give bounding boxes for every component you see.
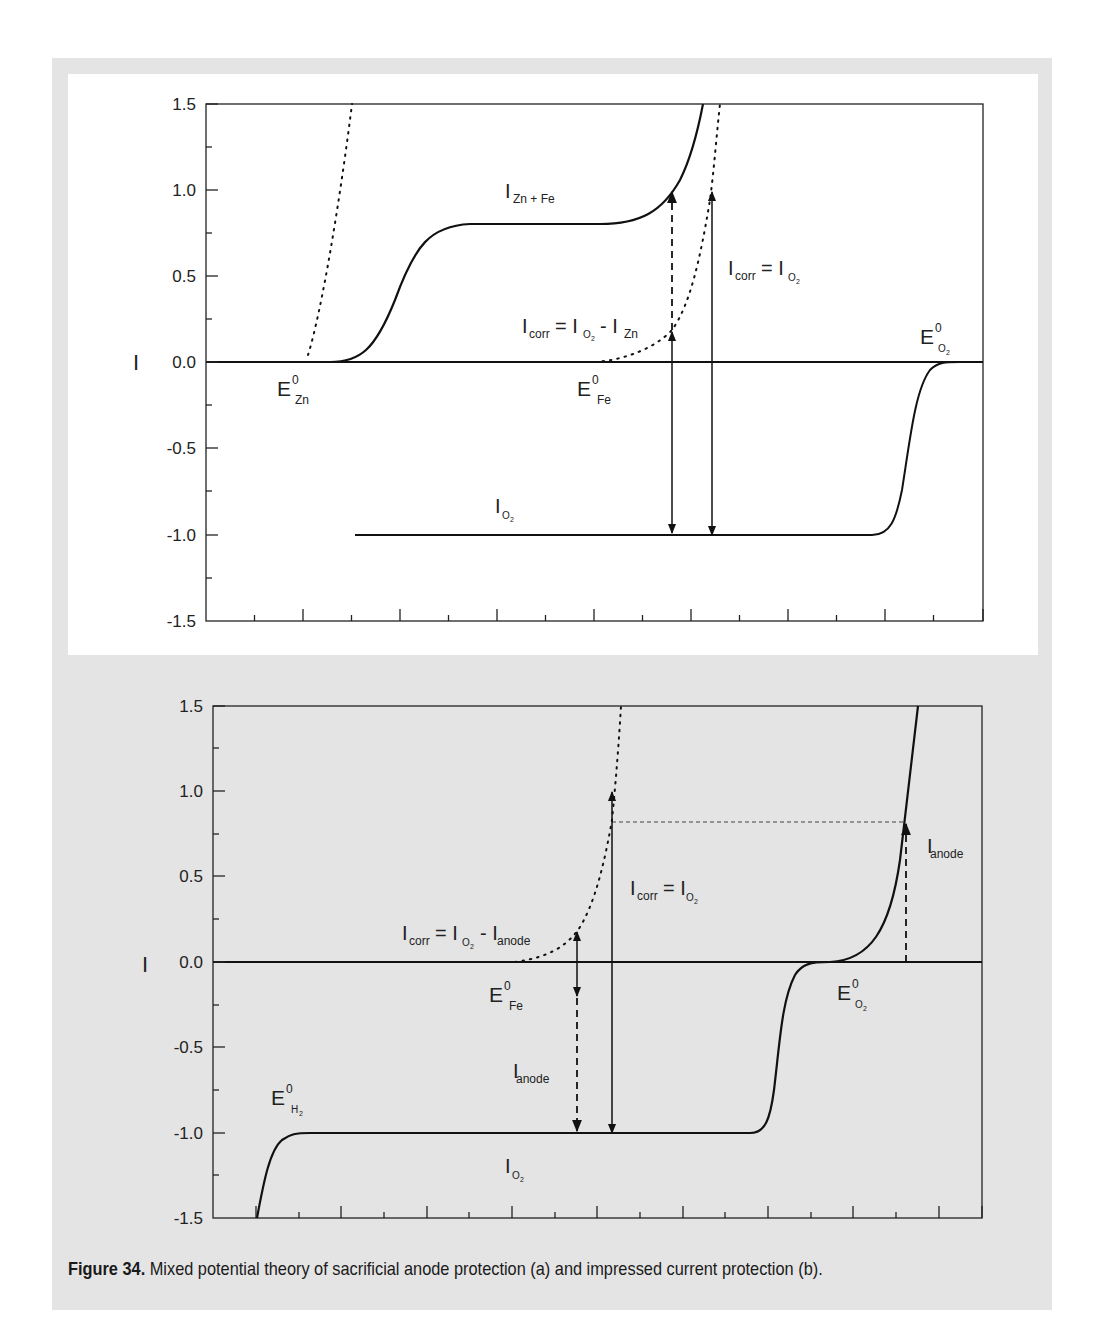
svg-text:corr: corr [637, 889, 658, 903]
svg-text:2: 2 [299, 1110, 303, 1117]
label-ianode-right: I anode [927, 835, 964, 861]
svg-text:= I: = I [555, 315, 578, 337]
label-icorr-o2: I corr = I O 2 [630, 877, 698, 905]
label-e0-fe: E 0 Fe [577, 373, 611, 407]
x-ticks [256, 1206, 982, 1218]
svg-text:H: H [291, 1104, 298, 1115]
label-icorr-o2-minus-anode: I corr = I O 2 - I anode [402, 922, 531, 950]
svg-text:E: E [277, 377, 291, 400]
svg-text:E: E [489, 983, 503, 1006]
svg-text:0: 0 [504, 979, 511, 993]
ytick-1.0: 1.0 [172, 181, 196, 200]
label-icorr-o2: I corr = I O 2 [728, 257, 800, 285]
svg-text:- I: - I [600, 315, 618, 337]
ytick-0.0: 0.0 [179, 953, 203, 972]
chart-b: 1.5 1.0 0.5 0.0 -0.5 -1.0 -1.5 I I corr … [142, 697, 982, 1228]
svg-text:corr: corr [409, 934, 430, 948]
svg-text:2: 2 [591, 335, 595, 342]
svg-text:O: O [855, 999, 863, 1010]
label-e0-o2: E 0 O 2 [837, 977, 867, 1012]
ytick-0.0: 0.0 [172, 353, 196, 372]
svg-text:2: 2 [946, 349, 950, 356]
label-e0-h2: E 0 H 2 [271, 1082, 303, 1117]
svg-text:- I: - I [480, 922, 498, 944]
svg-text:O: O [938, 343, 946, 354]
figure-svg: 1.5 1.0 0.5 0.0 -0.5 -1.0 -1.5 I I Zn + … [0, 0, 1098, 1323]
svg-text:anode: anode [497, 934, 531, 948]
svg-text:O: O [462, 937, 470, 948]
y-tick-labels: 1.5 1.0 0.5 0.0 -0.5 -1.0 -1.5 [167, 95, 196, 631]
svg-text:corr: corr [529, 327, 550, 341]
svg-text:I: I [728, 257, 734, 279]
label-icorr-o2-minus-zn: I corr = I O 2 - I Zn [522, 315, 638, 342]
ytick-0.5: 0.5 [172, 267, 196, 286]
y-ticks [206, 104, 218, 578]
ytick-neg1.5: -1.5 [174, 1209, 203, 1228]
svg-text:E: E [271, 1086, 285, 1109]
ytick-neg1.5: -1.5 [167, 612, 196, 631]
curve-zn-dotted [308, 104, 352, 355]
svg-text:I: I [505, 180, 511, 202]
svg-text:anode: anode [516, 1072, 550, 1086]
svg-text:I: I [505, 1155, 511, 1177]
ytick-1.0: 1.0 [179, 782, 203, 801]
svg-text:corr: corr [735, 269, 756, 283]
svg-text:anode: anode [930, 847, 964, 861]
svg-text:E: E [577, 377, 591, 400]
svg-text:= I: = I [663, 877, 686, 899]
ytick-neg1.0: -1.0 [167, 526, 196, 545]
svg-text:2: 2 [863, 1005, 867, 1012]
svg-text:O: O [788, 272, 796, 283]
label-e0-fe: E 0 Fe [489, 979, 523, 1013]
ytick-1.5: 1.5 [172, 95, 196, 114]
label-i-o2: I O 2 [495, 495, 514, 523]
label-e0-zn: E 0 Zn [277, 373, 309, 407]
svg-text:0: 0 [935, 321, 942, 335]
y-ticks [213, 706, 225, 1175]
ytick-neg1.0: -1.0 [174, 1124, 203, 1143]
svg-text:Zn + Fe: Zn + Fe [513, 192, 555, 206]
svg-text:Fe: Fe [509, 999, 523, 1013]
svg-text:O: O [512, 1170, 520, 1181]
svg-text:E: E [920, 325, 934, 348]
curve-fe-dotted [515, 706, 621, 962]
y-axis-label: I [133, 350, 139, 375]
svg-text:2: 2 [796, 278, 800, 285]
ytick-0.5: 0.5 [179, 867, 203, 886]
caption-text: Mixed potential theory of sacrificial an… [145, 1258, 823, 1279]
ytick-1.5: 1.5 [179, 697, 203, 716]
y-axis-label: I [142, 952, 148, 977]
svg-text:I: I [630, 877, 636, 899]
curve-zn-fe [300, 104, 703, 362]
svg-text:= I: = I [761, 257, 784, 279]
svg-text:I: I [495, 495, 501, 517]
ytick-neg0.5: -0.5 [167, 439, 196, 458]
svg-text:O: O [502, 510, 510, 521]
figure-caption: Figure 34. Mixed potential theory of sac… [68, 1258, 911, 1280]
svg-text:Zn: Zn [295, 393, 309, 407]
svg-text:Zn: Zn [624, 327, 638, 341]
ytick-neg0.5: -0.5 [174, 1038, 203, 1057]
curve-o2 [355, 362, 983, 535]
svg-text:I: I [402, 922, 408, 944]
label-i-o2: I O 2 [505, 1155, 524, 1183]
svg-text:2: 2 [694, 898, 698, 905]
svg-text:0: 0 [852, 977, 859, 991]
svg-text:0: 0 [292, 373, 299, 387]
x-ticks [255, 609, 984, 621]
svg-text:O: O [583, 329, 591, 340]
chart-a: 1.5 1.0 0.5 0.0 -0.5 -1.0 -1.5 I I Zn + … [133, 95, 983, 631]
svg-text:0: 0 [592, 373, 599, 387]
label-ianode-left: I anode [513, 1060, 550, 1086]
svg-text:O: O [686, 892, 694, 903]
svg-text:2: 2 [520, 1176, 524, 1183]
svg-text:2: 2 [510, 516, 514, 523]
label-i-zn-fe: I Zn + Fe [505, 180, 555, 206]
svg-text:Fe: Fe [597, 393, 611, 407]
y-tick-labels: 1.5 1.0 0.5 0.0 -0.5 -1.0 -1.5 [174, 697, 203, 1228]
svg-text:0: 0 [286, 1082, 293, 1096]
svg-text:= I: = I [435, 922, 458, 944]
svg-text:2: 2 [470, 943, 474, 950]
caption-label: Figure 34. [68, 1258, 145, 1279]
svg-text:E: E [837, 981, 851, 1004]
